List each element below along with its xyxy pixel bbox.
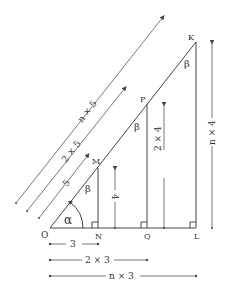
right-angle-markers <box>92 222 196 228</box>
dim-label-base-small: 3 <box>70 239 76 249</box>
right-angle-n <box>92 222 98 228</box>
angle-label-beta-p: β <box>134 121 140 132</box>
point-label-q: Q <box>144 232 151 241</box>
dim-label-vert-large: n × 4 <box>207 120 217 145</box>
point-label-o: O <box>41 230 48 240</box>
point-label-p: P <box>140 95 146 104</box>
similar-triangles-diagram: O N Q L M P K α β β β 5 2 × 5 n × 5 4 2 … <box>0 0 228 293</box>
dim-label-vert-mid: 2 × 4 <box>153 126 163 151</box>
point-label-k: K <box>188 33 195 42</box>
dim-label-base-large: n × 3 <box>109 271 134 281</box>
main-triangle <box>50 42 196 228</box>
dim-label-base-mid: 2 × 3 <box>85 255 110 265</box>
dim-label-hyp-large: n × 5 <box>76 98 99 124</box>
angle-label-beta-k: β <box>184 58 190 69</box>
dim-label-hyp-small: 5 <box>61 177 73 188</box>
hypotenuse-ok <box>50 42 196 228</box>
point-label-m: M <box>92 157 100 166</box>
angle-label-alpha: α <box>64 213 72 227</box>
right-angle-l <box>190 222 196 228</box>
vertical-dimensions <box>115 42 212 228</box>
point-label-l: L <box>194 232 200 241</box>
dim-label-hyp-mid: 2 × 5 <box>60 138 83 164</box>
dim-label-vert-small: 4 <box>110 194 120 200</box>
point-label-n: N <box>95 232 102 241</box>
right-angle-q <box>141 222 147 228</box>
angle-label-beta-m: β <box>85 183 91 194</box>
